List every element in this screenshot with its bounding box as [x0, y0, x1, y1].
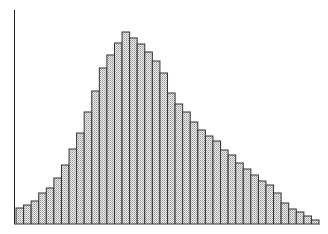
histogram-bar: [84, 112, 92, 224]
histogram-bars: [16, 32, 319, 224]
histogram-bar: [190, 122, 198, 224]
histogram-bar: [130, 38, 138, 224]
histogram-bar: [160, 73, 168, 224]
histogram-bar: [213, 141, 221, 224]
histogram-bar: [145, 52, 153, 224]
histogram-bar: [99, 68, 107, 224]
histogram-bar: [77, 133, 85, 224]
histogram-bar: [266, 185, 274, 224]
histogram-bar: [183, 112, 191, 224]
histogram-bar: [296, 212, 304, 224]
histogram-bar: [228, 155, 236, 224]
histogram-bar: [251, 175, 259, 224]
histogram-bar: [46, 188, 54, 224]
histogram-bar: [168, 93, 176, 224]
histogram-bar: [205, 136, 213, 224]
histogram-bar: [54, 178, 62, 224]
histogram-bar: [258, 181, 266, 224]
histogram-bar: [24, 205, 32, 224]
histogram-bar: [243, 169, 251, 224]
histogram-chart: [0, 0, 328, 234]
histogram-bar: [137, 44, 145, 224]
histogram-bar: [311, 220, 319, 224]
histogram-bar: [92, 91, 100, 224]
histogram-bar: [122, 32, 130, 224]
histogram-bar: [236, 163, 244, 224]
histogram-bar: [289, 209, 297, 224]
histogram-bar: [198, 130, 206, 224]
histogram-bar: [31, 201, 39, 224]
histogram-bar: [16, 208, 24, 224]
histogram-bar: [152, 61, 160, 224]
histogram-bar: [281, 203, 289, 224]
histogram-bar: [69, 149, 77, 224]
histogram-bar: [175, 104, 183, 224]
histogram-bar: [304, 216, 312, 224]
histogram-bar: [39, 193, 47, 224]
histogram-bar: [107, 55, 115, 224]
histogram-bar: [221, 150, 229, 224]
histogram-bar: [274, 193, 282, 224]
histogram-bar: [114, 43, 122, 224]
histogram-bar: [61, 165, 69, 224]
